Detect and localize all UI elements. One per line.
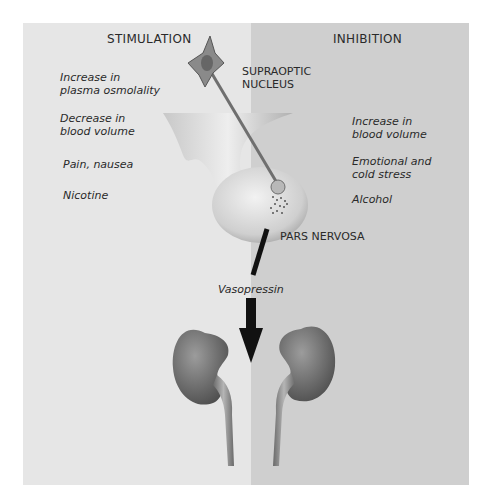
- stimulation-factor: Nicotine: [63, 189, 108, 202]
- vasopressin-arrow: [239, 229, 267, 363]
- neuron-icon: [188, 36, 224, 87]
- inhibition-factor: Increase in blood volume: [352, 115, 427, 141]
- left-kidney: [173, 330, 234, 466]
- inhibition-factor: Alcohol: [352, 193, 392, 206]
- diagram-panel: STIMULATION INHIBITION Increase in plasm…: [23, 23, 469, 485]
- vasopressin-label: Vasopressin: [218, 283, 284, 296]
- inhibition-factor: Emotional and cold stress: [352, 155, 431, 181]
- stimulation-factor: Pain, nausea: [63, 158, 133, 171]
- pars-nervosa-label: PARS NERVOSA: [280, 230, 365, 243]
- stimulation-heading: STIMULATION: [107, 32, 191, 46]
- supraoptic-nucleus-label: SUPRAOPTIC NUCLEUS: [242, 65, 311, 91]
- inhibition-heading: INHIBITION: [333, 32, 402, 46]
- stimulation-factor: Decrease in blood volume: [60, 112, 135, 138]
- axon-terminal: [271, 180, 285, 194]
- right-kidney: [273, 327, 335, 466]
- stimulation-factor: Increase in plasma osmolality: [60, 71, 160, 97]
